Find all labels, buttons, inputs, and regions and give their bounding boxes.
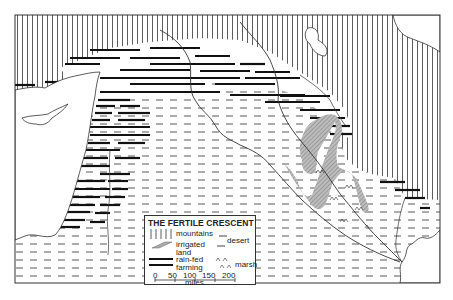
map-legend: THE FERTILE CRESCENT mountains desert ir…	[144, 215, 256, 285]
legend-label-farming: farming	[176, 264, 203, 271]
legend-title: THE FERTILE CRESCENT	[148, 218, 254, 228]
legend-label-desert: desert	[227, 237, 249, 244]
scale-unit: miles	[185, 279, 204, 286]
legend-label-marsh: marsh	[235, 261, 257, 268]
legend-label-rainfed: rain-fed	[176, 256, 203, 263]
marsh-symbol-icon	[215, 256, 235, 270]
mountains-symbol-icon	[149, 229, 173, 239]
rainfed-symbol-icon	[148, 256, 174, 268]
irrigated-symbol-icon	[151, 240, 173, 250]
legend-label-mountains: mountains	[176, 230, 213, 237]
legend-label-irrigated: irrigated	[176, 241, 205, 248]
